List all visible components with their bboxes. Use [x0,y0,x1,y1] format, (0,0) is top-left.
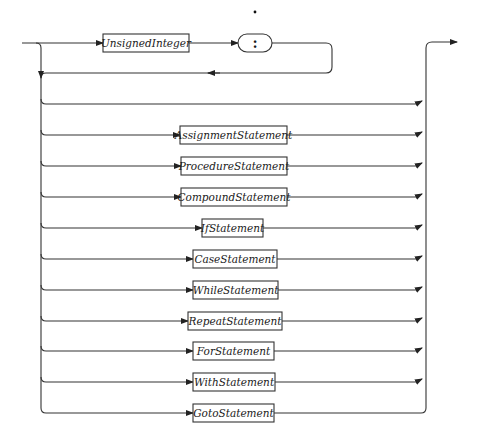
exit-line [421,42,457,413]
alternative-assignment: AssignmentStatement [41,126,422,144]
assignment-statement-label: AssignmentStatement [174,129,293,141]
alternative-with: WithStatement [41,373,422,391]
syntax-diagram: UnsignedInteger : AssignmentStatement Pr… [0,0,482,444]
alternative-case: CaseStatement [41,250,422,268]
unsigned-integer-node: UnsignedInteger [101,34,192,52]
compound-statement-label: CompoundStatement [178,191,292,203]
entry-line [22,43,46,413]
alternative-empty [41,99,422,104]
prefix-loop-join [41,73,46,78]
procedure-statement-label: ProcedureStatement [178,160,290,172]
while-statement-label: WhileStatement [193,284,280,296]
if-statement-label: IfStatement [200,222,265,234]
colon-label: : [252,35,257,51]
case-statement-label: CaseStatement [194,253,276,265]
with-statement-label: WithStatement [194,376,275,388]
colon-terminal: : [238,34,272,52]
alternative-if: IfStatement [41,219,422,237]
alternative-procedure: ProcedureStatement [41,157,422,175]
goto-statement-label: GotoStatement [193,407,274,419]
alternative-repeat: RepeatStatement [41,312,422,330]
alternative-compound: CompoundStatement [41,188,422,206]
alternative-while: WhileStatement [41,281,422,299]
stray-dot [254,11,257,14]
repeat-statement-label: RepeatStatement [188,315,283,327]
alternative-goto: GotoStatement [46,404,421,422]
unsigned-integer-label: UnsignedInteger [101,37,192,49]
alternative-for: ForStatement [41,342,422,360]
for-statement-label: ForStatement [196,345,271,357]
